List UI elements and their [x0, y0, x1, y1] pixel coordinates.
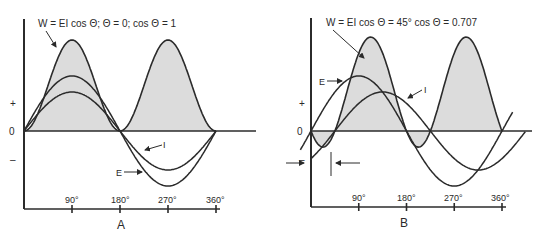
panel-b-label-i: I [424, 85, 427, 95]
panel-b-tick-180: 180° [397, 193, 416, 203]
power-waveform-diagram: W = EI cos Θ; Θ = 0; cos Θ = 1 + 0 – 90°… [0, 0, 541, 237]
panel-b [286, 18, 532, 211]
panel-a-minus-label: – [10, 154, 16, 165]
panel-b-tick-360: 360° [491, 193, 510, 203]
panel-a-title: W = EI cos Θ; Θ = 0; cos Θ = 1 [38, 18, 177, 29]
panel-b-plus-label: + [299, 98, 305, 109]
panel-b-caption: B [400, 216, 408, 230]
panel-b-minus-label: – [299, 154, 305, 165]
panel-a-tick-90: 90° [65, 195, 79, 205]
panel-a-plus-label: + [10, 98, 16, 109]
panel-b-zero-label: 0 [297, 126, 303, 137]
panel-b-label-e: E [319, 77, 325, 87]
panel-a-label-e: E [116, 168, 122, 178]
panel-b-title: W = EI cos Θ = 45° cos Θ = 0.707 [326, 17, 477, 28]
panel-a-tick-270: 270° [158, 195, 177, 205]
panel-a-caption: A [117, 218, 125, 232]
panel-a [24, 19, 256, 213]
panel-a-tick-180: 180° [111, 195, 130, 205]
title-arrow [333, 30, 364, 58]
panel-b-tick-90: 90° [352, 193, 366, 203]
panel-a-tick-360: 360° [206, 195, 225, 205]
label-i-arrow [408, 90, 422, 98]
label-i-arrow [145, 145, 162, 150]
panel-a-label-i: I [163, 140, 166, 150]
panel-b-tick-270: 270° [444, 193, 463, 203]
panel-a-zero-label: 0 [9, 126, 15, 137]
title-arrow [46, 31, 56, 47]
